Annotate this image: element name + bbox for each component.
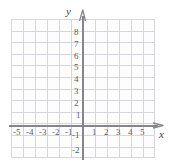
x-tick-label: 1 xyxy=(92,128,97,137)
y-tick-label: 2 xyxy=(74,99,79,108)
y-tick-label: 1 xyxy=(76,111,81,120)
grid-border-right xyxy=(154,19,155,158)
x-axis-label: x xyxy=(159,128,164,140)
y-tick-label: 3 xyxy=(74,87,79,96)
y-tick-label: 5 xyxy=(74,63,79,72)
y-tick-label: 4 xyxy=(74,75,79,84)
x-tick-label: 5 xyxy=(140,128,145,137)
y-axis-line xyxy=(82,16,84,160)
x-tick-label: 2 xyxy=(104,128,109,137)
y-tick-label: -1 xyxy=(72,131,80,140)
y-tick-label: 6 xyxy=(74,52,79,61)
y-tick-label: -2 xyxy=(72,146,80,155)
x-tick-label: -5 xyxy=(13,128,21,137)
y-tick-label: 8 xyxy=(74,28,79,37)
arrow-up-icon xyxy=(76,8,90,21)
coordinate-plane: -5 -4 -3 -2 -1 1 2 3 4 5 8 7 6 5 4 3 2 1… xyxy=(0,0,171,165)
x-tick-label: -3 xyxy=(39,128,47,137)
x-tick-label: 3 xyxy=(116,128,121,137)
x-tick-label: -4 xyxy=(26,128,34,137)
y-tick-label: 7 xyxy=(74,40,79,49)
x-tick-label: 4 xyxy=(128,128,133,137)
x-tick-label: -2 xyxy=(52,128,60,137)
y-axis-label: y xyxy=(66,5,71,17)
